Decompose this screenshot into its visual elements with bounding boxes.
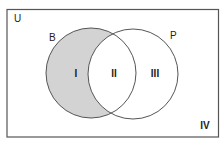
- set-b-label: B: [49, 32, 56, 43]
- venn-diagram: U B P I II III IV: [0, 0, 222, 145]
- region-i-label: I: [75, 68, 78, 79]
- universe-label: U: [14, 13, 21, 24]
- region-iii-label: III: [151, 68, 160, 79]
- region-ii-label: II: [111, 68, 117, 79]
- region-iv-label: IV: [200, 120, 210, 131]
- set-p-label: P: [170, 30, 177, 41]
